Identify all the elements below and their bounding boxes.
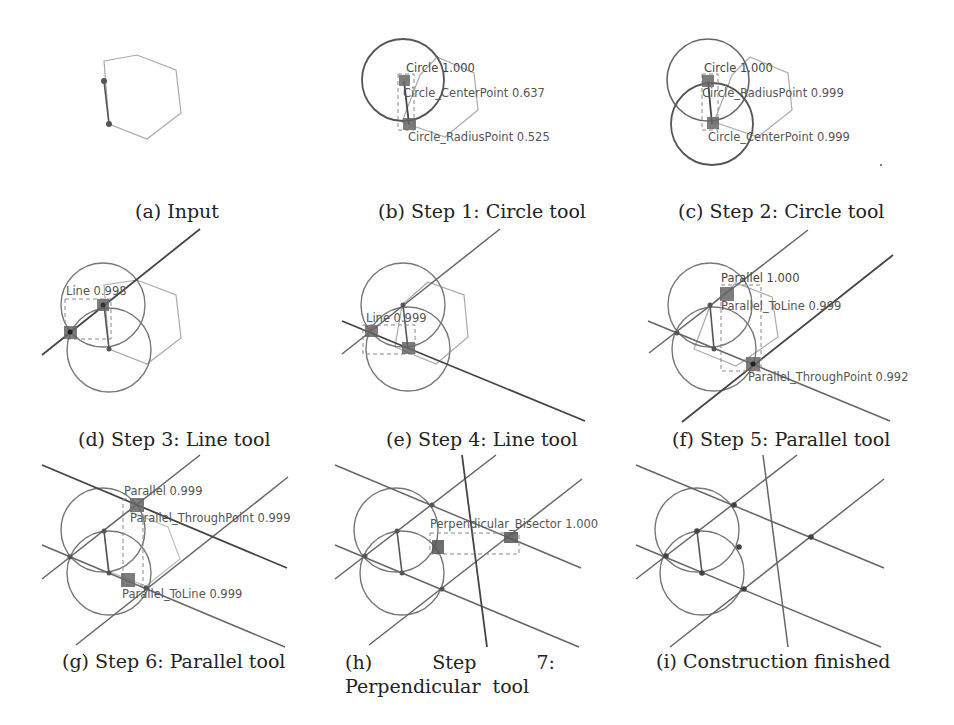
caption-a: (a) Input [135, 200, 219, 222]
caption-f: (f) Step 5: Parallel tool [672, 428, 890, 450]
panel-g-step6: Parallel 0.999 Parallel_ThroughPoint 0.9… [0, 455, 318, 725]
label-center-point: Circle_CenterPoint 0.637 [403, 86, 545, 100]
panel-b-diagram: Circle 1.000 Circle_CenterPoint 0.637 Ci… [318, 0, 636, 225]
panel-a-input: (a) Input [0, 0, 318, 225]
panel-i-diagram [636, 455, 954, 725]
label-through-point: Parallel_ThroughPoint 0.992 [748, 370, 908, 384]
hexagon-shape [104, 55, 181, 139]
panel-c-step2: Circle 1.000 Circle_RadiusPoint 0.999 Ci… [636, 0, 954, 225]
radius-point-marker [403, 118, 416, 130]
panel-f-diagram: Parallel 1.000 Parallel_ToLine 0.999 Par… [636, 225, 954, 455]
label-circle: Circle 1.000 [406, 61, 475, 75]
caption-c: (c) Step 2: Circle tool [678, 200, 884, 222]
label-line: Line 0.998 [66, 284, 127, 298]
panel-e-diagram: Line 0.999 [318, 225, 636, 455]
point-icon [106, 121, 112, 127]
point-icon [101, 78, 107, 84]
caption-b: (b) Step 1: Circle tool [378, 200, 586, 222]
panel-a-diagram [0, 0, 318, 225]
label-through-point: Parallel_ThroughPoint 0.999 [130, 511, 290, 525]
label-circle: Circle 1.000 [704, 61, 773, 75]
panel-g-diagram: Parallel 0.999 Parallel_ThroughPoint 0.9… [0, 455, 318, 725]
caption-h: (h) Step 7: Perpendicular tool [345, 650, 555, 698]
caption-e: (e) Step 4: Line tool [386, 428, 578, 450]
label-to-line: Parallel_ToLine 0.999 [721, 299, 841, 313]
panel-b-step1: Circle 1.000 Circle_CenterPoint 0.637 Ci… [318, 0, 636, 225]
label-radius-point: Circle_RadiusPoint 0.525 [408, 130, 550, 144]
panel-c-diagram: Circle 1.000 Circle_RadiusPoint 0.999 Ci… [636, 0, 954, 225]
label-perpendicular-bisector: Perpendicular_Bisector 1.000 [430, 517, 598, 531]
panel-d-diagram: Line 0.998 [0, 225, 318, 455]
panel-f-step5: Parallel 1.000 Parallel_ToLine 0.999 Par… [636, 225, 954, 455]
panel-e-step4: Line 0.999 (e) Step 4: Line tool [318, 225, 636, 455]
panel-d-step3: Line 0.998 (d) Step 3: Line tool [0, 225, 318, 455]
label-to-line: Parallel_ToLine 0.999 [122, 587, 242, 601]
label-center-point: Circle_CenterPoint 0.999 [708, 130, 850, 144]
caption-d: (d) Step 3: Line tool [78, 428, 270, 450]
perpendicular-bisector-line [462, 455, 487, 647]
caption-g: (g) Step 6: Parallel tool [62, 650, 285, 672]
center-point-marker [707, 117, 719, 129]
label-radius-point: Circle_RadiusPoint 0.999 [702, 86, 844, 100]
label-parallel: Parallel 0.999 [124, 484, 202, 498]
constructed-line [342, 321, 585, 421]
label-line: Line 0.999 [366, 311, 427, 325]
center-point-marker [399, 75, 410, 86]
panel-i-finished: (i) Construction finished [636, 455, 954, 725]
panel-h-step7: Perpendicular_Bisector 1.000 (h) Step 7:… [318, 455, 636, 725]
caption-i: (i) Construction finished [656, 650, 890, 672]
label-parallel: Parallel 1.000 [721, 271, 799, 285]
